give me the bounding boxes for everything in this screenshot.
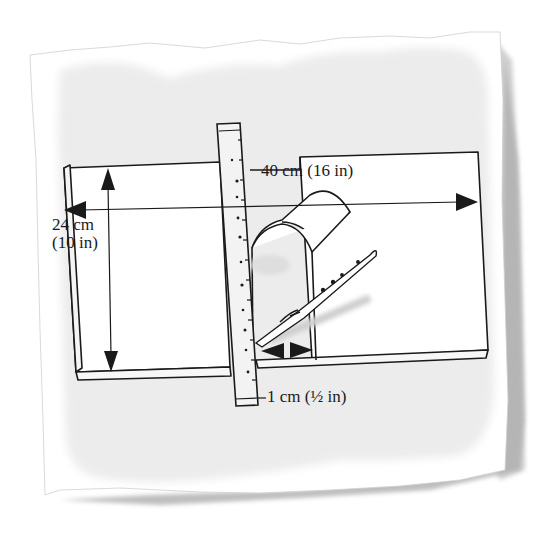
height-label-in: (10 in): [52, 234, 98, 252]
gap-label: 1 cm (½ in): [267, 388, 346, 406]
width-label: 40 cm (16 in): [261, 162, 353, 180]
height-label-cm: 24 cm: [52, 216, 98, 234]
illustration: 40 cm (16 in) 24 cm (10 in) 1 cm (½ in): [0, 0, 560, 539]
diagram-canvas: [0, 0, 560, 539]
height-label: 24 cm (10 in): [52, 216, 98, 252]
